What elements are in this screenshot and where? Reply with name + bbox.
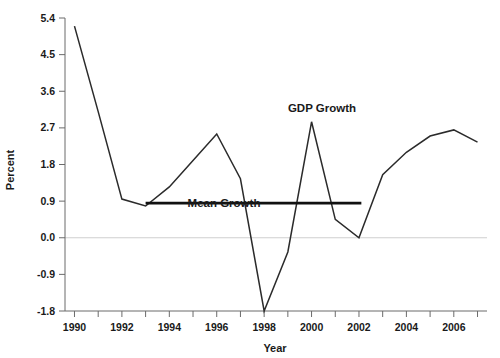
y-axis-tick-label: 5.4 bbox=[40, 12, 55, 24]
y-axis-tick-label: 1.8 bbox=[40, 158, 55, 170]
mean-growth-series-label: Mean Growth bbox=[188, 197, 261, 209]
x-axis-tick-label: 1994 bbox=[158, 321, 182, 333]
gdp-growth-series-label: GDP Growth bbox=[288, 102, 356, 114]
y-axis-tick-label: 0.9 bbox=[40, 195, 55, 207]
x-axis-tick-label: 2002 bbox=[347, 321, 371, 333]
x-axis-tick-label: 2006 bbox=[442, 321, 466, 333]
chart-canvas: 5.44.53.62.71.80.90.0-0.9-1.8 1990199219… bbox=[0, 0, 500, 358]
y-axis-tick-label: 3.6 bbox=[40, 85, 55, 97]
x-axis-tick-label: 1992 bbox=[110, 321, 134, 333]
x-axis-tick-label: 2000 bbox=[300, 321, 324, 333]
x-axis-tick-label: 1996 bbox=[205, 321, 229, 333]
y-axis-tick-label: 2.7 bbox=[40, 121, 55, 133]
x-axis-tick-label: 1990 bbox=[63, 321, 87, 333]
y-axis-tick-label: 4.5 bbox=[40, 48, 55, 60]
y-axis-tick-label: -0.9 bbox=[37, 268, 55, 280]
chart-background bbox=[0, 0, 500, 358]
x-axis-title: Year bbox=[263, 342, 287, 354]
x-axis-tick-label: 2004 bbox=[395, 321, 419, 333]
x-axis-tick-label: 1998 bbox=[252, 321, 276, 333]
y-axis-tick-label: -1.8 bbox=[37, 305, 55, 317]
y-axis-title: Percent bbox=[4, 149, 16, 190]
y-axis-tick-label: 0.0 bbox=[40, 231, 55, 243]
gdp-growth-chart: 5.44.53.62.71.80.90.0-0.9-1.8 1990199219… bbox=[0, 0, 500, 358]
